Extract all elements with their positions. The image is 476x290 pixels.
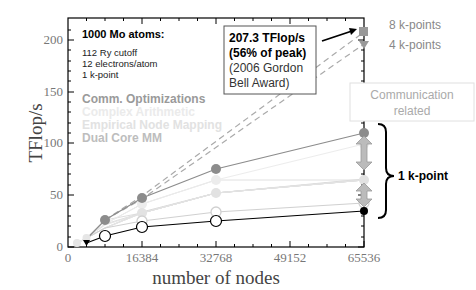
label-communication: Communication <box>370 88 453 102</box>
label-8-kpoints: 8 k-points <box>389 18 441 32</box>
y-tick-150: 150 <box>44 84 64 99</box>
legend-complex-arithmetic: Complex Arithmetic <box>82 105 195 119</box>
comm-opt-point-8192 <box>100 215 110 225</box>
baseline-point-8192 <box>100 231 111 242</box>
callout-line-3: (2006 Gordon <box>229 61 303 75</box>
right-labels: 8 k-points 4 k-points <box>389 18 441 52</box>
x-axis-label: number of nodes <box>152 267 280 288</box>
legend-comm-optimizations: Comm. Optimizations <box>82 92 206 106</box>
y-tick-50: 50 <box>50 187 63 202</box>
y-tick-100: 100 <box>44 135 64 150</box>
info-title: 1000 Mo atoms: <box>82 28 165 40</box>
y-tick-0: 0 <box>57 239 64 254</box>
comm-opt-point-16384 <box>137 193 147 203</box>
comm-opt-point-32768 <box>211 164 221 174</box>
tflops-chart: 0 50 100 150 200 0 16384 32768 49152 655… <box>0 0 476 290</box>
info-line-3: 1 k-point <box>82 69 119 80</box>
callout-line-1: 207.3 TFlop/s <box>229 31 305 45</box>
x-tick-65536: 65536 <box>348 250 381 265</box>
info-line-2: 12 electrons/atom <box>82 58 158 69</box>
label-1-kpoint: 1 k-point <box>398 169 448 183</box>
x-tick-labels: 0 16384 32768 49152 65536 <box>65 250 381 265</box>
x-tick-32768: 32768 <box>200 250 233 265</box>
legend-empirical-node-mapping: Empirical Node Mapping <box>82 118 222 132</box>
callout-line-2: (56% of peak) <box>229 46 306 60</box>
legend-dual-core-mm: Dual Core MM <box>82 131 162 145</box>
baseline-point-16384 <box>137 222 148 233</box>
label-related: related <box>394 104 431 118</box>
x-tick-49152: 49152 <box>274 250 307 265</box>
label-4-kpoints: 4 k-points <box>389 38 441 52</box>
info-line-1: 112 Ry cutoff <box>82 47 137 58</box>
marker-8-kpoints <box>359 27 368 36</box>
x-tick-0: 0 <box>65 250 72 265</box>
brace-icon <box>378 124 394 218</box>
callout-line-4: Bell Award) <box>229 76 289 90</box>
baseline-point-32768 <box>211 216 222 227</box>
y-tick-labels: 0 50 100 150 200 <box>44 32 64 254</box>
y-axis-label: TFlop/s <box>25 103 46 162</box>
baseline-point-65536 <box>360 207 368 215</box>
y-tick-200: 200 <box>44 32 64 47</box>
x-tick-16384: 16384 <box>126 250 159 265</box>
